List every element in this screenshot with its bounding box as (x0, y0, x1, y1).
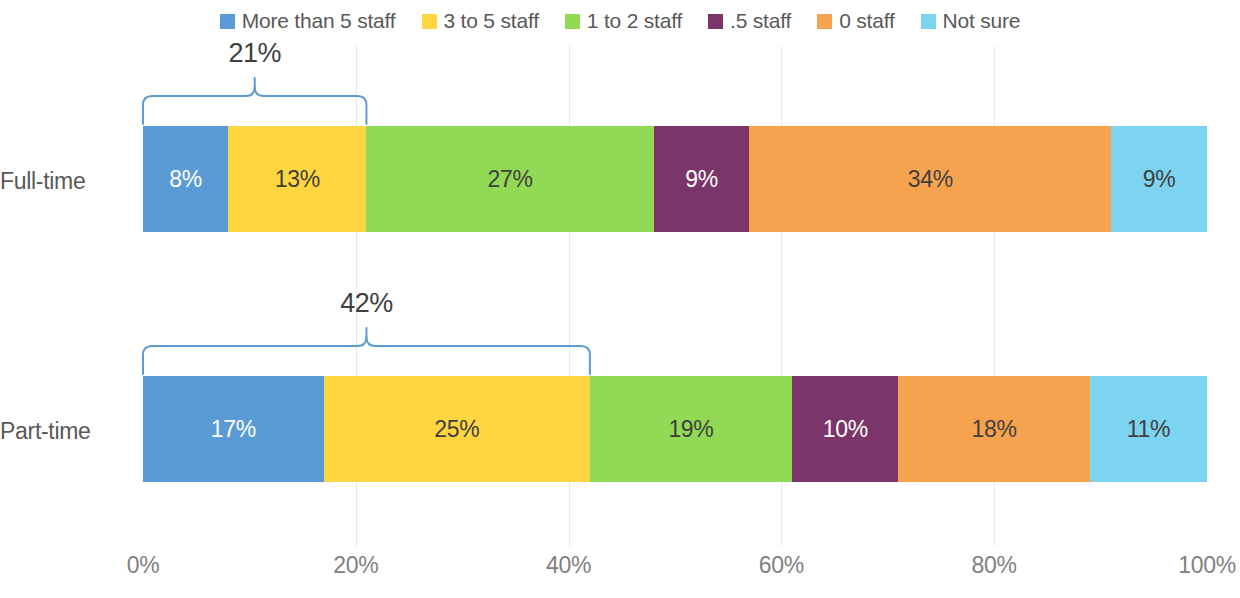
legend-item-label: 0 staff (839, 9, 894, 33)
bar-segment[interactable]: 27% (366, 126, 653, 232)
bar-segment[interactable]: 17% (143, 376, 324, 482)
category-label-part-time: Part-time (0, 418, 135, 445)
stacked-bar-chart: More than 5 staff3 to 5 staff1 to 2 staf… (0, 0, 1240, 598)
bar-segment-label: 13% (275, 166, 320, 193)
bar-segment[interactable]: 10% (792, 376, 898, 482)
bar-segment[interactable]: 25% (324, 376, 590, 482)
bar-segment-label: 27% (487, 166, 532, 193)
legend-swatch-icon (817, 14, 832, 29)
legend-item-1_to_2[interactable]: 1 to 2 staff (565, 9, 682, 33)
legend-item-label: 1 to 2 staff (587, 9, 682, 33)
legend-item-label: .5 staff (730, 9, 791, 33)
bar-segment[interactable]: 34% (749, 126, 1111, 232)
bar-segment-label: 18% (972, 416, 1017, 443)
bar-row-full-time: 8%13%27%9%34%9% (143, 126, 1207, 232)
legend-swatch-icon (220, 14, 235, 29)
bar-segment-label: 9% (685, 166, 718, 193)
bar-segment-label: 11% (1127, 416, 1170, 443)
bar-segment-label: 25% (434, 416, 479, 443)
legend-swatch-icon (921, 14, 936, 29)
legend-item-zero[interactable]: 0 staff (817, 9, 894, 33)
bar-segment-label: 19% (668, 416, 713, 443)
bar-segment-label: 17% (211, 416, 256, 443)
legend-swatch-icon (708, 14, 723, 29)
bar-segment[interactable]: 19% (590, 376, 792, 482)
bar-segment[interactable]: 9% (1111, 126, 1207, 232)
bar-segment-label: 10% (823, 416, 868, 443)
bar-segment-label: 34% (908, 166, 953, 193)
legend-item-label: More than 5 staff (242, 9, 396, 33)
legend-swatch-icon (565, 14, 580, 29)
bar-segment[interactable]: 9% (654, 126, 750, 232)
legend-item-half[interactable]: .5 staff (708, 9, 791, 33)
bar-segment[interactable]: 18% (898, 376, 1090, 482)
bar-segment[interactable]: 8% (143, 126, 228, 232)
bar-segment-label: 8% (169, 166, 202, 193)
bar-segment[interactable]: 11% (1090, 376, 1207, 482)
x-axis: 0%20%40%60%80%100% (0, 552, 1240, 592)
legend-item-more_than_5[interactable]: More than 5 staff (220, 9, 396, 33)
legend-item-not_sure[interactable]: Not sure (921, 9, 1021, 33)
x-axis-tick-label: 40% (546, 552, 591, 579)
legend-item-label: Not sure (943, 9, 1021, 33)
x-axis-tick-label: 20% (333, 552, 378, 579)
x-axis-tick-label: 100% (1178, 552, 1236, 579)
x-axis-tick-label: 60% (759, 552, 804, 579)
chart-legend: More than 5 staff3 to 5 staff1 to 2 staf… (0, 4, 1240, 38)
legend-item-label: 3 to 5 staff (444, 9, 539, 33)
legend-item-3_to_5[interactable]: 3 to 5 staff (422, 9, 539, 33)
plot-area: 8%13%27%9%34%9% 17%25%19%10%18%11% (143, 46, 1207, 546)
bar-segment-label: 9% (1143, 166, 1176, 193)
x-axis-tick-label: 80% (972, 552, 1017, 579)
bar-row-part-time: 17%25%19%10%18%11% (143, 376, 1207, 482)
legend-swatch-icon (422, 14, 437, 29)
x-axis-tick-label: 0% (127, 552, 160, 579)
bar-segment[interactable]: 13% (228, 126, 366, 232)
category-label-full-time: Full-time (0, 168, 135, 195)
